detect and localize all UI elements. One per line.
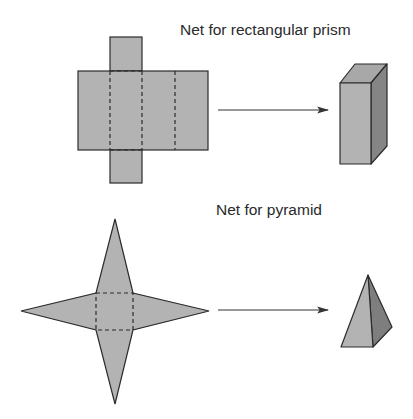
nets-diagram: Net for rectangular prism Net for pyrami… [0, 0, 413, 419]
pyramid-3d [341, 275, 392, 347]
rectangular-prism-net [78, 37, 208, 183]
pyramid-net [21, 219, 209, 404]
diagram-graphics [0, 0, 413, 419]
rectangular-prism-3d [340, 64, 387, 164]
